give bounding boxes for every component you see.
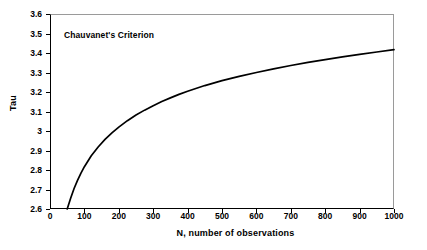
x-tick-label: 800 bbox=[318, 212, 332, 221]
x-tick-label: 600 bbox=[249, 212, 263, 221]
x-tick-label: 300 bbox=[146, 212, 160, 221]
x-tick-label: 500 bbox=[215, 212, 229, 221]
x-tick-mark bbox=[256, 209, 257, 213]
x-tick-mark bbox=[222, 209, 223, 213]
y-axis-title: Tau bbox=[8, 95, 18, 111]
x-tick-mark bbox=[153, 209, 154, 213]
x-tick-label: 1000 bbox=[385, 212, 404, 221]
x-tick-label: 400 bbox=[181, 212, 195, 221]
chauvanet-criterion-chart: Chauvanet's Criterion 2.62.72.82.933.13.… bbox=[0, 0, 427, 250]
x-axis-title: N, number of observations bbox=[0, 228, 427, 238]
x-tick-mark bbox=[291, 209, 292, 213]
x-tick-label: 700 bbox=[284, 212, 298, 221]
x-tick-label: 100 bbox=[77, 212, 91, 221]
x-tick-label: 900 bbox=[353, 212, 367, 221]
x-tick-mark bbox=[394, 209, 395, 213]
x-tick-label: 0 bbox=[48, 212, 53, 221]
x-tick-mark bbox=[188, 209, 189, 213]
x-axis: 01002003004005006007008009001000 bbox=[0, 0, 427, 250]
x-tick-label: 200 bbox=[112, 212, 126, 221]
x-tick-mark bbox=[84, 209, 85, 213]
x-tick-mark bbox=[360, 209, 361, 213]
x-tick-mark bbox=[119, 209, 120, 213]
x-tick-mark bbox=[325, 209, 326, 213]
